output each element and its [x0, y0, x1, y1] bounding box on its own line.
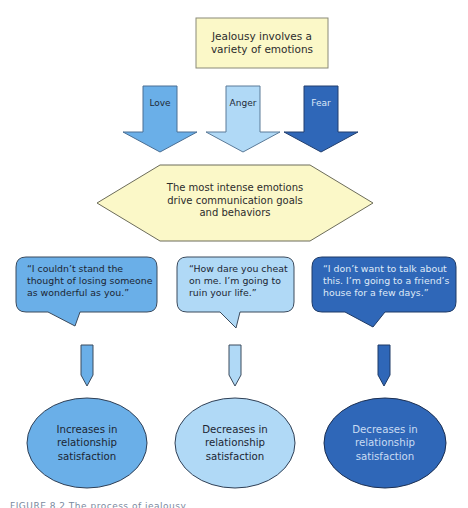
love-small-arrow-shape	[81, 345, 93, 386]
love-outcome-line-3: satisfaction	[32, 450, 142, 463]
fear-arrow-shape	[284, 86, 358, 152]
title-line-2: variety of emotions	[211, 43, 313, 56]
title-line-1: Jealousy involves a	[211, 30, 313, 43]
anger-outcome-line-3: satisfaction	[180, 450, 290, 463]
love-bubble-line-1: “I couldn’t stand the	[27, 263, 157, 275]
love-label: Love	[135, 98, 185, 109]
hexagon-line-3: and behaviors	[140, 207, 330, 220]
hexagon-line-2: drive communication goals	[140, 195, 330, 208]
anger-arrow-shape	[206, 86, 280, 152]
hexagon-text: The most intense emotions drive communic…	[140, 182, 330, 220]
love-outcome-line-1: Increases in	[32, 423, 142, 436]
anger-bubble-line-1: “How dare you cheat	[189, 263, 294, 275]
fear-outcome-line-1: Decreases in	[330, 423, 440, 436]
love-arrow-shape	[123, 86, 197, 152]
figure-caption-partial: FIGURE 8.2 The process of jealousy expre…	[10, 501, 210, 508]
love-outcome-line-2: relationship	[32, 436, 142, 449]
fear-outcome-text: Decreases in relationship satisfaction	[330, 423, 440, 463]
love-bubble-line-3: as wonderful as you.”	[27, 287, 157, 299]
title-box-text: Jealousy involves a variety of emotions	[196, 18, 328, 68]
fear-label: Fear	[296, 98, 346, 109]
fear-outcome-line-3: satisfaction	[330, 450, 440, 463]
hexagon-line-1: The most intense emotions	[140, 182, 330, 195]
fear-bubble-line-3: house for a few days.”	[323, 287, 458, 299]
fear-bubble-line-1: “I don’t want to talk about	[323, 263, 458, 275]
fear-small-arrow-shape	[378, 345, 390, 386]
anger-bubble-line-3: ruin your life.”	[189, 287, 294, 299]
anger-outcome-line-2: relationship	[180, 436, 290, 449]
anger-label: Anger	[218, 98, 268, 109]
love-bubble-line-2: thought of losing someone	[27, 275, 157, 287]
fear-bubble-line-2: this. I’m going to a friend’s	[323, 275, 458, 287]
anger-bubble-line-2: on me. I’m going to	[189, 275, 294, 287]
anger-outcome-line-1: Decreases in	[180, 423, 290, 436]
love-bubble-text: “I couldn’t stand the thought of losing …	[27, 263, 157, 300]
fear-bubble-text: “I don’t want to talk about this. I’m go…	[323, 263, 458, 300]
anger-bubble-text: “How dare you cheat on me. I’m going to …	[189, 263, 294, 300]
anger-outcome-text: Decreases in relationship satisfaction	[180, 423, 290, 463]
anger-small-arrow-shape	[229, 345, 241, 386]
love-outcome-text: Increases in relationship satisfaction	[32, 423, 142, 463]
fear-outcome-line-2: relationship	[330, 436, 440, 449]
